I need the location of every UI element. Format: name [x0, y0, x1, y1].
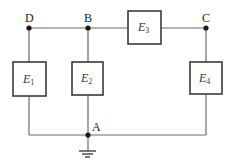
label-b: B — [84, 11, 92, 25]
label-c: C — [202, 11, 210, 25]
element-e1: E1 — [13, 62, 46, 96]
element-e4: E4 — [190, 62, 222, 94]
node-d — [26, 25, 31, 30]
node-c — [203, 25, 208, 30]
ground-icon — [79, 151, 96, 157]
label-a: A — [92, 120, 101, 134]
element-e2: E2 — [72, 62, 103, 95]
node-b — [85, 25, 90, 30]
element-e3: E3 — [128, 11, 161, 44]
label-d: D — [25, 11, 34, 25]
node-a — [85, 132, 90, 137]
circuit-diagram: E1 E2 E3 E4 D B C A — [0, 0, 231, 163]
